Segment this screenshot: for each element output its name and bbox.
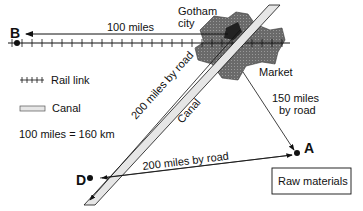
- point-d-label: D: [76, 172, 86, 188]
- market-label: Market: [259, 66, 293, 78]
- canal: [84, 5, 280, 205]
- route-b-label: 100 miles: [107, 21, 155, 33]
- route-a-label-2: by road: [279, 104, 316, 116]
- route-a-label-1: 150 miles: [272, 92, 320, 104]
- location-diagram: B 100 miles Gotham city Market A 150 mil…: [0, 0, 363, 211]
- city-label-2: city: [178, 17, 195, 29]
- legend-rail-label: Rail link: [51, 74, 90, 86]
- point-a-label: A: [304, 140, 314, 156]
- legend-canal-label: Canal: [52, 102, 81, 114]
- legend: Rail link Canal 100 miles = 160 km: [19, 74, 115, 140]
- road-city-to-d: [90, 30, 240, 200]
- city-label-1: Gotham: [178, 5, 217, 17]
- route-ad-label: 200 miles by road: [142, 149, 230, 171]
- legend-scale-label: 100 miles = 160 km: [19, 128, 115, 140]
- point-a: [294, 150, 300, 156]
- point-d: [87, 175, 93, 181]
- raw-materials-label: Raw materials: [278, 175, 348, 187]
- point-b-label: B: [10, 25, 20, 41]
